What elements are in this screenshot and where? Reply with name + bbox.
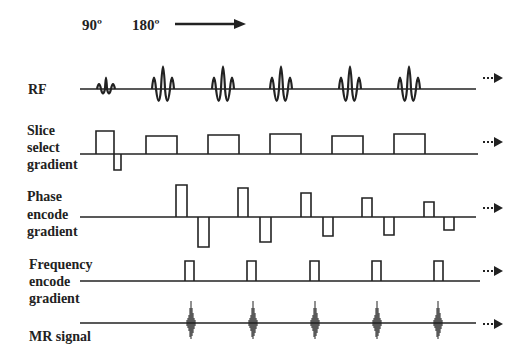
echo-2: [249, 301, 257, 339]
echo-4: [373, 301, 381, 339]
pulse-sequence-diagram: [0, 0, 530, 358]
frequency-continuation-arrow-icon: [483, 266, 503, 276]
mr-continuation-arrow-icon: [483, 319, 503, 329]
rf-continuation-arrow-icon: [483, 73, 503, 83]
slice-continuation-arrow-icon: [483, 137, 503, 147]
echo-3: [311, 301, 319, 339]
echo-1: [187, 301, 195, 339]
time-arrow-icon: [234, 19, 246, 29]
phase-continuation-arrow-icon: [483, 203, 503, 213]
echo-5: [434, 301, 442, 339]
